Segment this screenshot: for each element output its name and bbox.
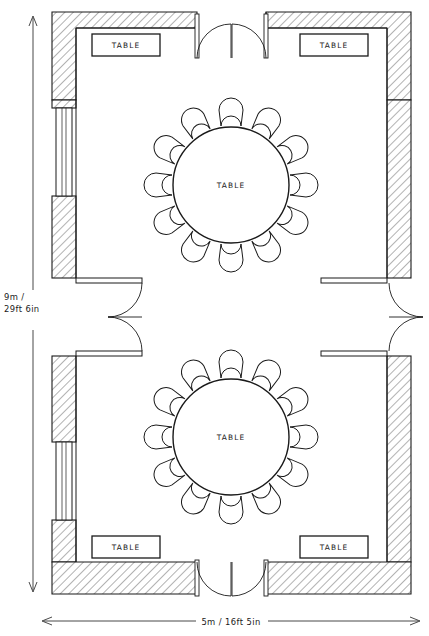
door-top-jamb-left (195, 14, 199, 58)
window-lower-left (56, 442, 72, 520)
table-bottom-right[interactable]: TABLE (300, 536, 368, 558)
wall-right-lower (387, 356, 411, 562)
door-bottom-swing-right (232, 562, 266, 596)
door-middle-left-swing-upper (108, 283, 142, 317)
table-top-left-label: TABLE (111, 41, 140, 50)
dimension-horizontal-label: 5m / 16ft 5in (201, 617, 260, 627)
round-table-upper[interactable]: TABLE (144, 98, 318, 272)
door-bottom[interactable] (195, 560, 268, 596)
door-middle-right-swing-lower (389, 317, 423, 351)
dimension-vertical-label-line1: 9m / (4, 292, 25, 302)
floor-plan-drawing: TABLE TABLE TABLE TABLE (0, 0, 429, 636)
wall-left-lower-above-window (52, 356, 76, 442)
wall-left-lower-below-window (52, 520, 76, 562)
jamb-mid-right-lower (321, 351, 387, 356)
door-bottom-swing-left (197, 562, 231, 596)
table-bottom-left-label: TABLE (111, 543, 140, 552)
window-upper-left (56, 108, 72, 196)
table-top-right[interactable]: TABLE (300, 34, 368, 56)
wall-left-upper-below-window (52, 196, 76, 278)
jamb-mid-left-lower (76, 351, 142, 356)
door-top-swing-left (197, 24, 231, 58)
wall-right-upper (387, 100, 411, 278)
table-bottom-left[interactable]: TABLE (92, 536, 160, 558)
door-top[interactable] (195, 14, 268, 58)
table-top-left[interactable]: TABLE (92, 34, 160, 56)
door-middle-right-swing-upper (389, 283, 423, 317)
door-top-swing-right (232, 24, 266, 58)
door-middle-left[interactable] (108, 283, 142, 351)
wall-bottom-left (52, 562, 197, 594)
dimension-vertical-label-line2: 29ft 6in (4, 304, 40, 314)
table-bottom-right-label: TABLE (319, 543, 348, 552)
windows-group (56, 108, 72, 520)
wall-left-upper-above-window (52, 100, 76, 108)
jamb-mid-right-upper (321, 278, 387, 283)
wall-bottom-right (266, 562, 411, 594)
round-table-lower-label: TABLE (216, 433, 245, 442)
door-middle-right[interactable] (389, 283, 423, 351)
door-middle-left-swing-lower (108, 317, 142, 351)
table-top-right-label: TABLE (319, 41, 348, 50)
round-table-lower[interactable]: TABLE (144, 350, 318, 524)
jamb-mid-left-upper (76, 278, 142, 283)
door-top-jamb-right (264, 14, 268, 58)
round-table-upper-label: TABLE (216, 181, 245, 190)
